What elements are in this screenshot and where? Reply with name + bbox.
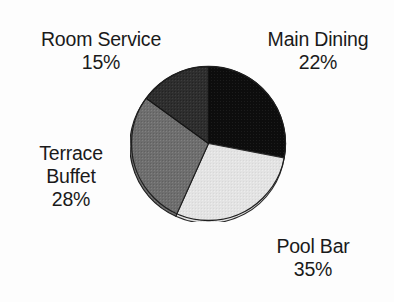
pie-chart-figure: Room Service 15% Main Dining 22% Terrace… <box>0 0 394 302</box>
pie-label-pool-bar: Pool Bar 35% <box>243 235 383 281</box>
pie-label-room-service-percent: 15% <box>16 51 186 74</box>
pie-label-terrace-buffet-name-line1: Terrace <box>18 142 124 165</box>
pie-chart-graphic <box>130 65 287 222</box>
pie-label-room-service-name: Room Service <box>16 28 186 51</box>
pie-label-main-dining: Main Dining 22% <box>243 28 393 74</box>
pie-svg <box>130 65 287 222</box>
pie-slice-main-dining[interactable] <box>209 67 286 158</box>
pie-label-main-dining-percent: 22% <box>243 51 393 74</box>
pie-label-pool-bar-name: Pool Bar <box>243 235 383 258</box>
pie-label-main-dining-name: Main Dining <box>243 28 393 51</box>
pie-label-pool-bar-percent: 35% <box>243 258 383 281</box>
pie-label-terrace-buffet-name-line2: Buffet <box>18 165 124 188</box>
pie-label-room-service: Room Service 15% <box>16 28 186 74</box>
pie-label-terrace-buffet: Terrace Buffet 28% <box>18 142 124 210</box>
pie-label-terrace-buffet-percent: 28% <box>18 188 124 211</box>
